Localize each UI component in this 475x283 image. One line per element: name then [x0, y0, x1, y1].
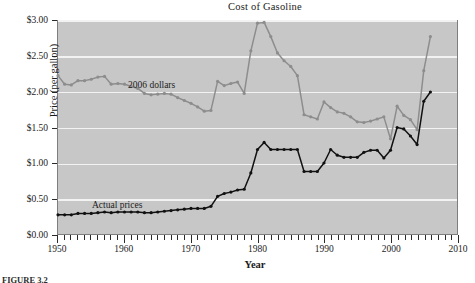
x-tick-minor — [264, 235, 265, 240]
data-point — [382, 156, 385, 159]
x-tick-major — [191, 235, 192, 243]
data-point — [63, 83, 66, 86]
x-tick-minor — [90, 235, 91, 240]
data-point — [389, 137, 392, 140]
data-point — [189, 207, 192, 210]
data-point — [243, 188, 246, 191]
x-tick-minor — [211, 235, 212, 240]
data-point — [356, 120, 359, 123]
x-tick-label: 1980 — [238, 244, 278, 254]
data-point — [96, 76, 99, 79]
data-point — [376, 117, 379, 120]
data-point — [90, 212, 93, 215]
x-tick-minor — [244, 235, 245, 240]
data-point — [76, 79, 79, 82]
data-point — [289, 65, 292, 68]
data-point — [302, 170, 305, 173]
x-tick-minor — [378, 235, 379, 240]
data-point — [103, 75, 106, 78]
data-point — [376, 149, 379, 152]
x-tick-minor — [398, 235, 399, 240]
y-tick-label: $1.50 — [0, 123, 48, 133]
x-tick-minor — [204, 235, 205, 240]
data-point — [409, 118, 412, 121]
data-point — [196, 105, 199, 108]
x-tick-minor — [431, 235, 432, 240]
data-point — [349, 156, 352, 159]
data-point — [183, 99, 186, 102]
data-point — [429, 90, 432, 93]
data-point — [90, 78, 93, 81]
data-point — [236, 80, 239, 83]
data-point — [110, 211, 113, 214]
series-line-actual-prices — [58, 92, 430, 215]
data-point — [169, 93, 172, 96]
data-point — [396, 126, 399, 129]
x-tick-major — [258, 235, 259, 243]
x-tick-minor — [318, 235, 319, 240]
data-point — [216, 80, 219, 83]
x-tick-minor — [237, 235, 238, 240]
data-point — [163, 92, 166, 95]
x-tick-minor — [298, 235, 299, 240]
x-tick-minor — [224, 235, 225, 240]
y-tick-mark — [52, 163, 57, 164]
x-tick-minor — [364, 235, 365, 240]
data-point — [116, 82, 119, 85]
data-point — [316, 170, 319, 173]
x-tick-label: 1960 — [104, 244, 144, 254]
data-point — [223, 84, 226, 87]
data-point — [223, 192, 226, 195]
x-tick-minor — [137, 235, 138, 240]
x-tick-minor — [351, 235, 352, 240]
data-point — [136, 210, 139, 213]
data-point — [110, 83, 113, 86]
x-tick-minor — [344, 235, 345, 240]
x-tick-minor — [231, 235, 232, 240]
x-tick-minor — [131, 235, 132, 240]
data-point — [409, 134, 412, 137]
x-tick-minor — [164, 235, 165, 240]
data-point — [176, 96, 179, 99]
data-point — [156, 93, 159, 96]
data-point — [123, 83, 126, 86]
data-point — [283, 148, 286, 151]
data-point — [389, 149, 392, 152]
y-tick-label: $0.00 — [0, 230, 48, 240]
annotation-2006-dollars: 2006 dollars — [128, 80, 175, 90]
data-point — [316, 117, 319, 120]
x-tick-minor — [304, 235, 305, 240]
y-tick-label: $1.00 — [0, 158, 48, 168]
data-point — [269, 35, 272, 38]
data-point — [209, 205, 212, 208]
data-point — [309, 170, 312, 173]
x-tick-minor — [117, 235, 118, 240]
x-tick-minor — [157, 235, 158, 240]
data-point — [203, 110, 206, 113]
x-tick-minor — [70, 235, 71, 240]
data-point — [176, 208, 179, 211]
data-point — [163, 210, 166, 213]
data-point — [416, 143, 419, 146]
x-tick-minor — [251, 235, 252, 240]
chart-title: Cost of Gasoline — [180, 1, 350, 12]
x-tick-major — [57, 235, 58, 243]
x-tick-minor — [405, 235, 406, 240]
data-point — [362, 151, 365, 154]
data-point — [169, 209, 172, 212]
y-tick-label: $2.00 — [0, 87, 48, 97]
x-tick-major — [391, 235, 392, 243]
data-point — [83, 212, 86, 215]
x-tick-minor — [425, 235, 426, 240]
data-point — [56, 213, 59, 216]
data-point — [256, 22, 259, 25]
data-point — [63, 213, 66, 216]
x-tick-minor — [217, 235, 218, 240]
data-point — [349, 115, 352, 118]
x-tick-label: 1970 — [171, 244, 211, 254]
annotation-actual-prices: Actual prices — [92, 200, 142, 210]
x-tick-major — [458, 235, 459, 243]
x-tick-minor — [144, 235, 145, 240]
x-tick-label: 1950 — [37, 244, 77, 254]
data-point — [329, 106, 332, 109]
